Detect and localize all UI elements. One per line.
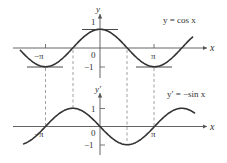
bottom-tick-neg-one: −1 <box>84 140 94 150</box>
top-equation-label: y = cos x <box>163 15 196 25</box>
top-y-axis-label: y <box>95 4 100 14</box>
top-graph: y x −π 0 π 1 −1 y = cos x <box>13 4 215 78</box>
derivative-diagram: y x −π 0 π 1 −1 y = cos x y′ x −π 0 π 1 … <box>0 0 227 163</box>
bottom-tick-pi: π <box>151 129 156 139</box>
top-tick-one: 1 <box>91 17 96 27</box>
bottom-tick-neg-pi: −π <box>34 129 44 139</box>
top-tick-neg-one: −1 <box>84 62 94 72</box>
top-tick-neg-pi: −π <box>34 51 44 61</box>
bottom-tick-one: 1 <box>91 104 96 114</box>
top-tick-pi: π <box>151 51 156 61</box>
bottom-equation-label: y′ = −sin x <box>167 89 206 99</box>
bottom-tick-zero: 0 <box>91 128 96 138</box>
bottom-y-axis-label: y′ <box>94 84 102 94</box>
bottom-x-axis-label: x <box>209 121 215 132</box>
top-tick-zero: 0 <box>91 50 96 60</box>
top-x-axis-label: x <box>209 42 215 53</box>
bottom-graph: y′ x −π 0 π 1 −1 y′ = −sin x <box>13 84 215 155</box>
